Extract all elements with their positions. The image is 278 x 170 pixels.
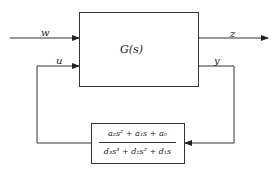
plant-label: G(s) bbox=[120, 44, 143, 55]
tf-denominator: d₃s³ + d₂s² + d₁s bbox=[91, 147, 184, 156]
controller-transfer-function: a₂s² + a₁s + a₀ d₃s³ + d₂s² + d₁s bbox=[91, 123, 184, 163]
tf-numerator: a₂s² + a₁s + a₀ bbox=[91, 129, 184, 138]
y-feedback-path bbox=[185, 66, 234, 143]
block-diagram: w u z y G(s) a₂s² + a₁s + a₀ d₃s³ + d₂s²… bbox=[0, 0, 278, 170]
u-control-path bbox=[37, 66, 91, 143]
signal-w-label: w bbox=[41, 28, 50, 38]
fraction-bar bbox=[99, 142, 176, 143]
signal-z-label: z bbox=[230, 29, 235, 39]
signal-u-label: u bbox=[56, 56, 62, 66]
signal-y-label: y bbox=[214, 56, 220, 66]
